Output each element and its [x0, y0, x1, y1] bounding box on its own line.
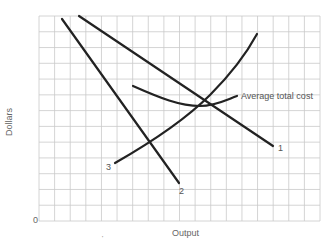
- origin-label: 0: [33, 215, 38, 225]
- line-2-label: 2: [179, 186, 184, 196]
- atc-label: Average total cost: [241, 91, 313, 101]
- x-axis-label: Output: [172, 228, 200, 238]
- economics-chart: 1 2 3 Average total cost 0 Output Dollar…: [0, 0, 334, 250]
- y-axis-label: Dollars: [4, 107, 14, 136]
- curve-3-label: 3: [106, 162, 111, 172]
- tick-mark: ': [102, 235, 103, 241]
- line-1-label: 1: [278, 143, 283, 153]
